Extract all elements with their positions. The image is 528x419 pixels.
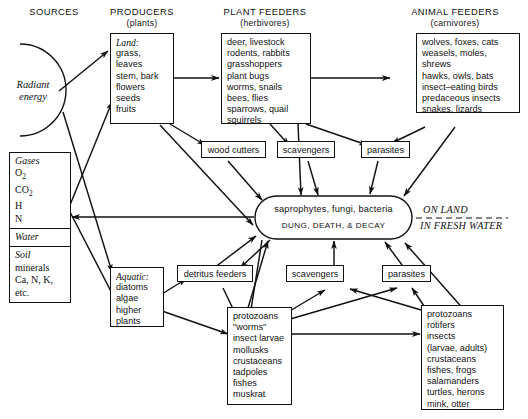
sources-soil-line3: etc. — [15, 287, 65, 299]
abiotic-sources-box: Gases O2 CO2 H N Water Soil minerals Ca,… — [9, 152, 71, 303]
plant-feeders-aquatic-items: protozoans "worms" insect larvae mollusk… — [233, 311, 287, 401]
radiant-energy-source: Radiant energy — [4, 79, 62, 103]
wood-cutters-label: wood cutters — [208, 145, 260, 155]
producers-aquatic-box: Aquatic: diatoms algae higher plants — [110, 267, 164, 327]
sources-water-heading: Water — [15, 231, 65, 243]
sources-gases-section: Gases O2 CO2 H N — [10, 153, 70, 228]
sources-soil-line1: minerals — [15, 262, 65, 274]
parasites-water-label: parasites — [388, 269, 425, 279]
sources-gas-co2: CO2 — [15, 184, 65, 200]
habitat-on-land-text: ON LAND — [423, 204, 468, 215]
plant-feeders-land-box: deer, livestock rodents, rabbits grassho… — [221, 33, 311, 124]
producers-land-items: grass, leaves stem, bark flowers seeds f… — [116, 48, 169, 115]
column-header-plant-feeders: PLANT FEEDERS (herbivores) — [212, 6, 318, 28]
decomposer-line1: saprophytes, fungi, bacteria — [255, 204, 412, 214]
column-header-producers-label: PRODUCERS — [110, 6, 174, 17]
detritus-feeders-box: detritus feeders — [177, 265, 253, 282]
sources-gas-n: N — [15, 213, 65, 225]
animal-feeders-aquatic-items: protozoans rotifers insects (larvae, adu… — [427, 309, 499, 410]
producers-land-heading: Land: — [116, 37, 169, 48]
sources-water-section: Water — [10, 228, 70, 246]
food-web-diagram: SOURCES PRODUCERS (plants) PLANT FEEDERS… — [0, 0, 528, 419]
producers-aquatic-items: diatoms algae higher plants — [116, 282, 159, 327]
plant-feeders-land-items: deer, livestock rodents, rabbits grassho… — [227, 37, 306, 127]
column-header-producers: PRODUCERS (plants) — [96, 6, 188, 28]
producers-aquatic-heading: Aquatic: — [116, 271, 159, 282]
sources-soil-section: Soil minerals Ca, N, K, etc. — [10, 246, 70, 302]
sources-soil-heading: Soil — [15, 249, 65, 261]
producers-land-box: Land: grass, leaves stem, bark flowers s… — [110, 33, 174, 124]
column-header-animal-feeders-sub: (carnivores) — [394, 18, 516, 28]
habitat-label-in-fresh-water: IN FRESH WATER — [420, 219, 502, 232]
plant-feeders-aquatic-box: protozoans "worms" insect larvae mollusk… — [227, 307, 292, 405]
column-header-sources: SOURCES — [6, 6, 102, 17]
sources-soil-line2: Ca, N, K, — [15, 274, 65, 286]
parasites-land-box: parasites — [361, 141, 410, 158]
animal-feeders-land-box: wolves, foxes, cats weasels, moles, shre… — [416, 33, 520, 113]
scavengers-water-label: scavengers — [292, 269, 339, 279]
column-header-animal-feeders: ANIMAL FEEDERS (carnivores) — [394, 6, 516, 28]
scavengers-water-box: scavengers — [286, 265, 344, 282]
wood-cutters-box: wood cutters — [201, 141, 266, 158]
parasites-land-label: parasites — [367, 145, 404, 155]
decomposer-label: saprophytes, fungi, bacteria DUNG, DEATH… — [255, 204, 412, 230]
habitat-label-on-land: ON LAND — [423, 203, 468, 216]
column-header-plant-feeders-sub: (herbivores) — [212, 18, 318, 28]
column-header-animal-feeders-label: ANIMAL FEEDERS — [411, 6, 499, 17]
column-header-producers-sub: (plants) — [96, 18, 188, 28]
habitat-in-fresh-water-text: IN FRESH WATER — [420, 220, 502, 231]
parasites-water-box: parasites — [382, 265, 431, 282]
scavengers-land-box: scavengers — [277, 141, 335, 158]
sources-gas-h: H — [15, 200, 65, 212]
sources-gases-heading: Gases — [15, 155, 65, 167]
radiant-energy-line2: energy — [4, 91, 62, 103]
decomposer-line2: DUNG, DEATH, & DECAY — [255, 221, 412, 230]
animal-feeders-aquatic-box: protozoans rotifers insects (larvae, adu… — [421, 305, 504, 410]
sources-gas-o2: O2 — [15, 167, 65, 183]
column-header-sources-label: SOURCES — [29, 6, 79, 17]
scavengers-land-label: scavengers — [283, 145, 330, 155]
detritus-feeders-label: detritus feeders — [184, 269, 247, 279]
animal-feeders-land-items: wolves, foxes, cats weasels, moles, shre… — [422, 37, 515, 115]
column-header-plant-feeders-label: PLANT FEEDERS — [224, 6, 307, 17]
radiant-energy-line1: Radiant — [4, 79, 62, 91]
